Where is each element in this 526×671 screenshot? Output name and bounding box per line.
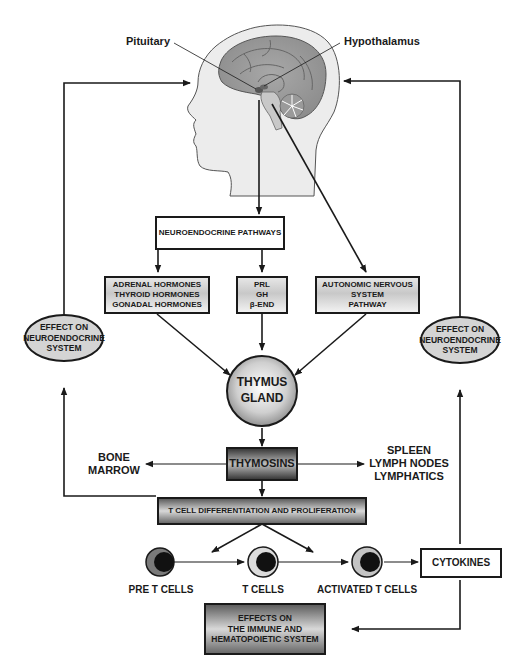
spleen-lymph-label: SPLEEN LYMPH NODES LYMPHATICS <box>366 444 452 484</box>
autonomic-nervous-system-box: AUTONOMIC NERVOUS SYSTEM PATHWAY <box>315 276 420 314</box>
prl-gh-bend-box: PRL GH β-END <box>236 276 288 314</box>
head-icon <box>188 25 340 196</box>
cytokines-box: CYTOKINES <box>420 548 502 578</box>
cell-icon <box>248 547 278 577</box>
thymus-gland-circle: THYMUS GLAND <box>226 355 298 427</box>
cell-icon <box>146 548 174 576</box>
right-effect-neuroendocrine-ellipse: EFFECT ON NEUROENDOCRINE SYSTEM <box>420 316 500 364</box>
left-effect-neuroendocrine-ellipse: EFFECT ON NEUROENDOCRINE SYSTEM <box>24 314 104 362</box>
t-cell-differentiation-box: T CELL DIFFERENTIATION AND PROLIFERATION <box>157 497 367 525</box>
hypothalamus-label: Hypothalamus <box>344 35 420 48</box>
cell-icon <box>352 547 382 577</box>
pre-t-cells-label: PRE T CELLS <box>118 584 204 596</box>
neuroendocrine-pathways-box: NEUROENDOCRINE PATHWAYS <box>155 216 285 250</box>
thymosins-box: THYMOSINS <box>226 447 298 481</box>
hormones-box: ADRENAL HORMONES THYROID HORMONES GONADA… <box>104 276 210 314</box>
pituitary-label: Pituitary <box>126 35 170 48</box>
t-cells-label: T CELLS <box>225 584 301 596</box>
neuroendocrine-thymus-diagram: Pituitary Hypothalamus NEUROENDOCRINE PA… <box>0 0 526 671</box>
activated-t-cells-label: ACTIVATED T CELLS <box>312 584 422 596</box>
effects-immune-hematopoietic-box: EFFECTS ON THE IMMUNE AND HEMATOPOIETIC … <box>204 603 326 655</box>
bone-marrow-label: BONE MARROW <box>84 451 144 477</box>
